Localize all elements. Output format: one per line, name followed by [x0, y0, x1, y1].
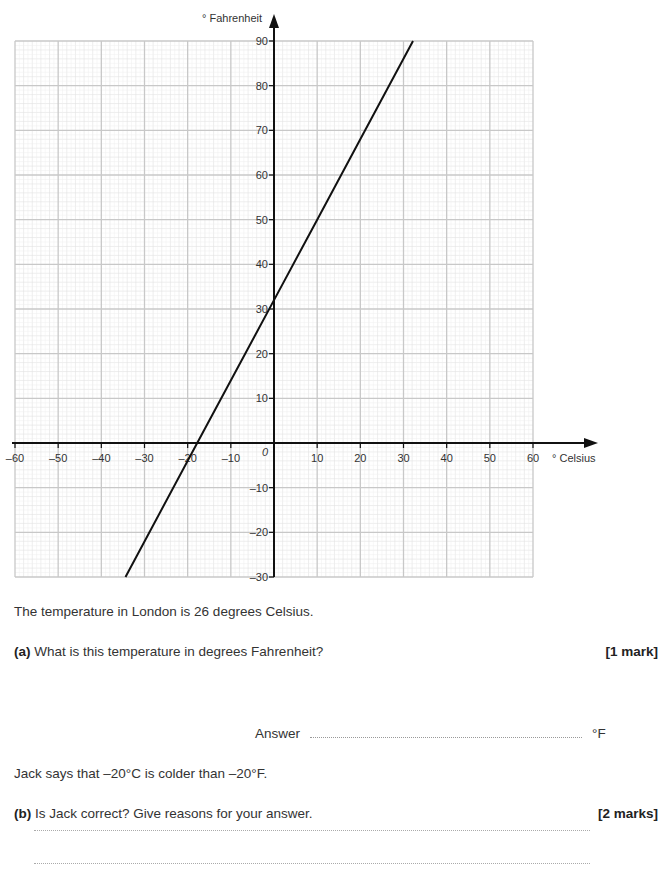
- y-tick-label: 40: [256, 258, 268, 270]
- x-tick-label: –60: [6, 452, 24, 464]
- part-b-question: (b) Is Jack correct? Give reasons for yo…: [14, 806, 313, 821]
- part-a-marks: [1 mark]: [605, 644, 658, 659]
- origin-label: 0: [262, 446, 269, 458]
- question-intro: The temperature in London is 26 degrees …: [14, 604, 313, 619]
- x-tick-label: 40: [441, 452, 453, 464]
- y-axis-title: ° Fahrenheit: [202, 12, 262, 24]
- y-tick-label: 60: [256, 169, 268, 181]
- x-tick-label: 50: [484, 452, 496, 464]
- y-tick-label: 80: [256, 80, 268, 92]
- jack-statement: Jack says that –20°C is colder than –20°…: [14, 766, 267, 781]
- part-b-answer-line-2[interactable]: [34, 863, 590, 864]
- x-tick-label: 30: [397, 452, 409, 464]
- x-tick-label: 60: [527, 452, 539, 464]
- part-a-answer-row: Answer °F: [255, 726, 606, 741]
- x-tick-label: –40: [92, 452, 110, 464]
- part-a-question: (a) What is this temperature in degrees …: [14, 644, 323, 659]
- part-b-marks: [2 marks]: [598, 806, 658, 821]
- answer-label: Answer: [255, 726, 300, 741]
- y-tick-label: 20: [256, 348, 268, 360]
- x-tick-label: 10: [311, 452, 323, 464]
- y-tick-label: –10: [250, 482, 268, 494]
- x-tick-label: 20: [354, 452, 366, 464]
- part-a-label: (a): [14, 644, 31, 659]
- x-tick-label: –30: [135, 452, 153, 464]
- part-b-text: Is Jack correct? Give reasons for your a…: [35, 806, 313, 821]
- part-a-text: What is this temperature in degrees Fahr…: [34, 644, 323, 659]
- y-tick-label: 10: [256, 392, 268, 404]
- x-tick-label: –10: [222, 452, 240, 464]
- x-tick-label: –50: [49, 452, 67, 464]
- y-tick-label: 90: [256, 35, 268, 47]
- part-b-label: (b): [14, 806, 31, 821]
- y-tick-label: –20: [250, 526, 268, 538]
- answer-unit: °F: [592, 726, 606, 741]
- y-tick-label: –30: [250, 571, 268, 583]
- part-b-answer-line-1[interactable]: [34, 830, 590, 831]
- x-axis-title: ° Celsius: [552, 452, 596, 464]
- conversion-graph: –60–50–40–30–20–10102030405060–30–20–101…: [0, 0, 662, 590]
- y-tick-label: 50: [256, 214, 268, 226]
- y-tick-label: 70: [256, 124, 268, 136]
- answer-input[interactable]: [310, 726, 582, 738]
